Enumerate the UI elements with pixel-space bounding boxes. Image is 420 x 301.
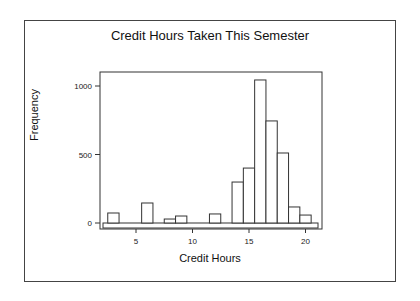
svg-text:15: 15 bbox=[245, 237, 254, 246]
svg-text:0: 0 bbox=[88, 219, 93, 228]
svg-text:500: 500 bbox=[79, 151, 93, 160]
bar bbox=[176, 216, 187, 223]
svg-text:20: 20 bbox=[301, 237, 310, 246]
bar bbox=[164, 219, 175, 223]
y-ticks: 05001000 bbox=[74, 82, 100, 228]
bar bbox=[300, 215, 311, 223]
bar bbox=[108, 213, 119, 223]
plot-area: 05001000 5101520 bbox=[0, 0, 420, 301]
x-ticks: 5101520 bbox=[134, 229, 311, 246]
svg-text:10: 10 bbox=[188, 237, 197, 246]
histogram-bars bbox=[108, 80, 311, 223]
bar bbox=[266, 121, 277, 223]
bar bbox=[277, 153, 288, 223]
bar bbox=[209, 214, 220, 223]
bar bbox=[289, 207, 300, 223]
bar bbox=[232, 182, 243, 223]
bar bbox=[255, 80, 266, 223]
bar bbox=[142, 203, 153, 223]
bar bbox=[243, 168, 254, 223]
svg-text:5: 5 bbox=[134, 237, 139, 246]
svg-text:1000: 1000 bbox=[74, 82, 92, 91]
